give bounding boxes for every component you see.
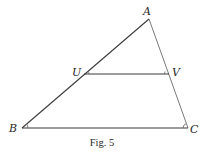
label-B: B [8,122,17,135]
angle-mark-C [183,124,186,129]
triangle-diagram: A U V B C Fig. 5 [0,0,207,153]
label-U: U [72,66,82,79]
figure-caption: Fig. 5 [90,137,115,148]
angle-mark-B [27,124,29,128]
label-C: C [190,123,199,136]
label-A: A [142,5,151,18]
label-V: V [172,66,181,79]
